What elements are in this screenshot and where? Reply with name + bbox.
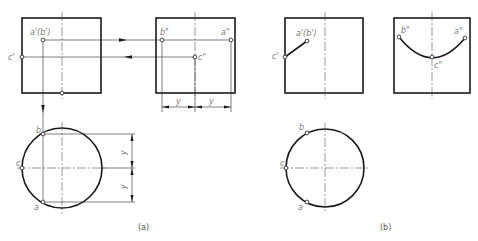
label-c-prime: c' bbox=[272, 52, 279, 61]
point-a bbox=[41, 200, 45, 204]
point-b-dprime bbox=[160, 38, 164, 42]
label-c-prime: c' bbox=[8, 53, 15, 62]
dim-arrow-icon bbox=[188, 106, 195, 109]
dimension-y: y bbox=[208, 97, 214, 106]
label-c: c bbox=[280, 159, 285, 168]
point-a-prime bbox=[305, 39, 309, 43]
label-a: a bbox=[34, 203, 39, 212]
point-c-dprime bbox=[193, 55, 197, 59]
label-c-dprime: c" bbox=[434, 61, 442, 70]
dim-arrow-icon bbox=[162, 106, 169, 109]
label-b: b bbox=[299, 123, 304, 132]
label-a: a bbox=[298, 203, 303, 212]
label-b-dprime: b" bbox=[160, 28, 169, 37]
projected-arc-edge bbox=[285, 41, 307, 57]
panel-a: a'(b') c' y y bbox=[8, 12, 235, 232]
panel-b: a'(b') c' b" a" c" b c a (b) bbox=[272, 12, 470, 232]
dim-arrow-icon bbox=[131, 161, 134, 168]
dimension-y: y bbox=[119, 184, 128, 190]
point-c-prime bbox=[20, 55, 24, 59]
point-b bbox=[41, 132, 45, 136]
dimension-y: y bbox=[175, 97, 181, 106]
point-c bbox=[284, 166, 288, 170]
arrow-down-icon bbox=[41, 105, 44, 113]
dim-arrow-icon bbox=[131, 168, 134, 175]
label-c: c bbox=[16, 159, 21, 168]
side-view-a: y y b" a" c" bbox=[156, 12, 235, 112]
point-c-prime bbox=[283, 55, 287, 59]
dim-arrow-icon bbox=[131, 134, 134, 141]
point-b bbox=[305, 131, 309, 135]
point-c-dprime bbox=[430, 55, 434, 59]
dim-arrow-icon bbox=[131, 195, 134, 202]
label-a-dprime: a" bbox=[221, 28, 230, 37]
caption-b: (b) bbox=[380, 223, 391, 232]
side-view-b: b" a" c" bbox=[394, 12, 470, 99]
dim-arrow-icon bbox=[195, 106, 202, 109]
label-c-dprime: c" bbox=[198, 53, 206, 62]
point-a-prime bbox=[41, 38, 45, 42]
label-a-dprime: a" bbox=[454, 27, 463, 36]
label-a-prime-b-prime: a'(b') bbox=[30, 28, 51, 37]
label-b-dprime: b" bbox=[401, 26, 410, 35]
caption-a: (a) bbox=[138, 223, 149, 232]
dimension-y: y bbox=[119, 150, 128, 156]
point-bottom bbox=[60, 91, 64, 95]
arrow-right-icon bbox=[119, 38, 127, 41]
label-a-prime-b-prime: a'(b') bbox=[296, 29, 317, 38]
point-b-dprime bbox=[397, 35, 401, 39]
label-b: b bbox=[36, 126, 41, 135]
point-a bbox=[305, 200, 309, 204]
point-a-dprime bbox=[229, 38, 233, 42]
arrow-left-icon bbox=[124, 55, 132, 58]
top-view-a: y y b c a bbox=[16, 122, 135, 214]
point-c bbox=[20, 166, 24, 170]
front-view-b: a'(b') c' bbox=[272, 12, 363, 99]
top-view-b: b c a bbox=[280, 123, 370, 213]
point-a-dprime bbox=[463, 36, 467, 40]
dim-arrow-icon bbox=[224, 106, 231, 109]
projection-diagram: a'(b') c' y y bbox=[0, 0, 478, 241]
